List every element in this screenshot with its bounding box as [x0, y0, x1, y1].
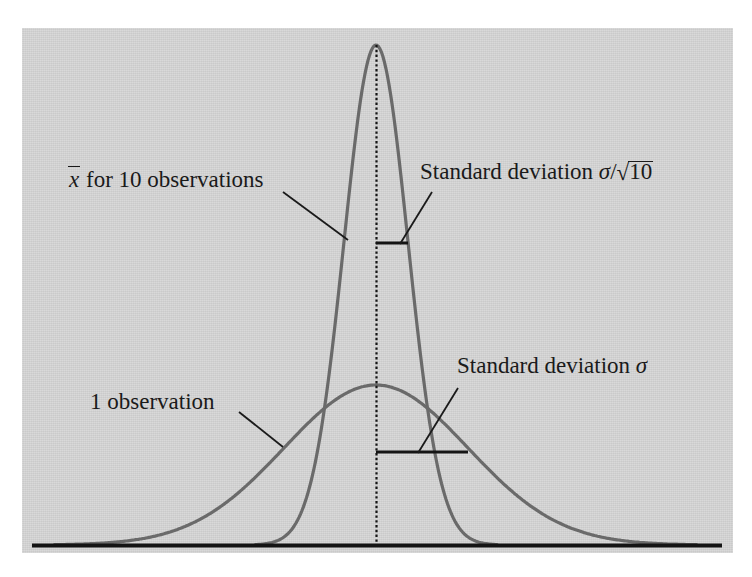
leader-line-xbar-label — [283, 192, 348, 240]
radical-sign-icon: √ — [617, 161, 630, 184]
sigma-symbol-wide: σ — [636, 353, 647, 378]
xbar-label-rest: for 10 observations — [80, 167, 263, 192]
leader-line-one-observation — [239, 412, 283, 447]
curves-plot — [0, 0, 752, 577]
leader-line-sd-sigma — [418, 388, 458, 453]
label-standard-deviation-sigma-over-sqrt10: Standard deviation σ/√10 — [420, 160, 653, 183]
sigma-symbol-narrow: σ — [599, 159, 610, 184]
radicand-10: 10 — [629, 160, 653, 183]
normal-curves-figure: x for 10 observations Standard deviation… — [0, 0, 752, 577]
xbar-symbol: x — [68, 168, 80, 191]
sd-prefix: Standard deviation — [457, 353, 636, 378]
label-one-observation: 1 observation — [90, 390, 215, 413]
sd-sqrt-prefix: Standard deviation — [420, 159, 599, 184]
label-xbar-10-observations: x for 10 observations — [68, 168, 264, 191]
label-standard-deviation-sigma: Standard deviation σ — [457, 354, 647, 377]
